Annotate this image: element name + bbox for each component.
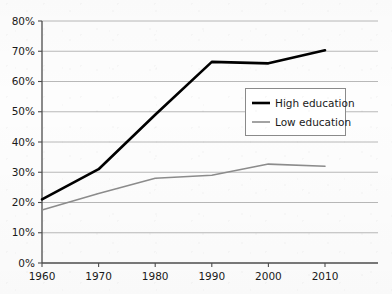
legend-box <box>246 89 346 136</box>
x-tick-label-1960: 1960 <box>29 270 56 282</box>
series-line-low-education <box>42 164 325 210</box>
y-tick-label-40%: 40% <box>12 136 35 148</box>
x-tick-label-1990: 1990 <box>198 270 225 282</box>
y-tick-label-30%: 30% <box>12 166 35 178</box>
x-axis-ticks-group: 196019701980199020002010 <box>29 263 339 282</box>
y-tick-label-0%: 0% <box>18 257 35 269</box>
chart-legend: High education Low education <box>246 89 355 136</box>
x-tick-label-1980: 1980 <box>142 270 169 282</box>
x-tick-label-2010: 2010 <box>312 270 339 282</box>
chart-container: 0%10%20%30%40%50%60%70%80% 1960197019801… <box>0 0 392 294</box>
y-tick-label-60%: 60% <box>12 75 35 87</box>
y-tick-label-50%: 50% <box>12 105 35 117</box>
y-tick-label-70%: 70% <box>12 45 35 57</box>
y-axis-ticks-group: 0%10%20%30%40%50%60%70%80% <box>12 15 42 269</box>
y-tick-label-20%: 20% <box>12 196 35 208</box>
y-tick-label-10%: 10% <box>12 226 35 238</box>
y-tick-label-80%: 80% <box>12 15 35 27</box>
x-tick-label-2000: 2000 <box>255 270 282 282</box>
legend-label-low-education: Low education <box>275 116 351 128</box>
legend-label-high-education: High education <box>275 97 355 109</box>
line-chart: 0%10%20%30%40%50%60%70%80% 1960197019801… <box>0 0 392 294</box>
x-tick-label-1970: 1970 <box>85 270 112 282</box>
